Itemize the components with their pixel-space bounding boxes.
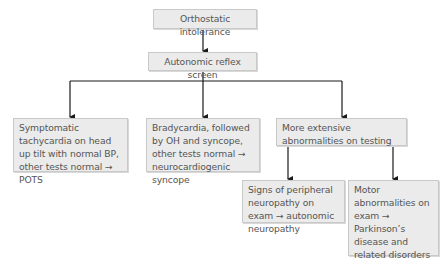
node-autonomic-neuropathy: Signs of peripheral neuropathy on exam →… [242, 180, 345, 223]
node-label: More extensive abnormalities on testing [282, 122, 392, 146]
node-pots: Symptomatic tachycardia on head up tilt … [13, 118, 128, 172]
node-neurocardiogenic-syncope: Bradycardia, followed by OH and syncope,… [146, 118, 260, 172]
node-orthostatic-intolerance: Orthostatic intolerance [153, 9, 257, 29]
node-autonomic-reflex-screen: Autonomic reflex screen [148, 52, 257, 71]
node-extensive-abnormalities: More extensive abnormalities on testing [276, 118, 407, 146]
node-label: Orthostatic intolerance [180, 13, 231, 37]
node-parkinsons: Motor abnormalities on exam → Parkinson’… [348, 180, 439, 256]
node-label: Motor abnormalities on exam → Parkinson’… [354, 184, 430, 260]
